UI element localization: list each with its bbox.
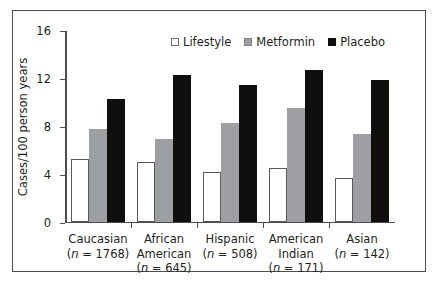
y-tick-label-16: 16	[36, 26, 51, 38]
y-tick-0: 0	[60, 223, 65, 224]
bar-asian-metformin	[353, 134, 371, 222]
figure-frame: Lifestyle Metformin Placebo Cases/100 pe…	[12, 10, 426, 272]
y-tick-label-0: 0	[44, 218, 51, 230]
bar-asian-lifestyle	[335, 178, 353, 221]
plot-area: Cases/100 person years 16 12 8 4 0 Cauca…	[65, 31, 395, 223]
x-axis-label-n-african-american: (n = 645)	[116, 261, 212, 276]
x-tick-2	[197, 223, 198, 228]
bar-african-american-placebo	[173, 75, 191, 221]
bar-asian-placebo	[371, 80, 389, 222]
x-axis-line	[65, 222, 395, 224]
bar-caucasian-placebo	[107, 99, 125, 221]
x-tick-1	[131, 223, 132, 228]
x-axis-label-n-american-indian: (n = 171)	[248, 261, 344, 276]
bar-group-hispanic	[197, 30, 263, 222]
x-tick-4	[329, 223, 330, 228]
bar-group-caucasian	[65, 30, 131, 222]
bar-american-indian-lifestyle	[269, 168, 287, 222]
bar-group-american-indian	[263, 30, 329, 222]
bar-group-asian	[329, 30, 395, 222]
bar-hispanic-placebo	[239, 85, 257, 222]
bar-group-african-american	[131, 30, 197, 222]
bar-caucasian-lifestyle	[71, 159, 89, 221]
bar-african-american-lifestyle	[137, 162, 155, 222]
y-tick-label-4: 4	[44, 170, 51, 182]
bar-hispanic-lifestyle	[203, 172, 221, 221]
bar-caucasian-metformin	[89, 129, 107, 221]
x-axis-label-line: Asian	[314, 232, 410, 247]
y-tick-label-12: 12	[36, 74, 51, 86]
bar-american-indian-placebo	[305, 70, 323, 221]
y-tick-label-8: 8	[44, 122, 51, 134]
y-axis-title: Cases/100 person years	[16, 58, 30, 196]
bar-american-indian-metformin	[287, 108, 305, 222]
bar-african-american-metformin	[155, 139, 173, 222]
x-tick-3	[263, 223, 264, 228]
bar-hispanic-metformin	[221, 123, 239, 221]
x-axis-label-n-asian: (n = 142)	[314, 247, 410, 262]
x-axis-label-asian: Asian(n = 142)	[314, 232, 410, 261]
